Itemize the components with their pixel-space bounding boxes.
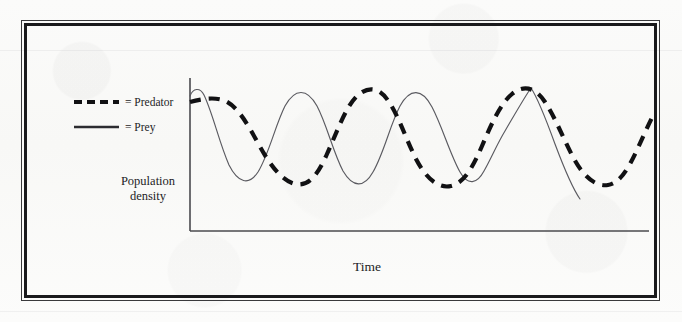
legend-item-predator: = Predator — [67, 92, 217, 112]
figure-border-inner: = Predator = Prey Population density Tim… — [24, 23, 657, 298]
legend-label-predator: = Predator — [125, 92, 173, 112]
legend: = Predator = Prey — [67, 92, 217, 144]
figure-page: = Predator = Prey Population density Tim… — [0, 0, 682, 322]
plot-area: = Predator = Prey Population density Tim… — [27, 26, 654, 295]
figure-border: = Predator = Prey Population density Tim… — [21, 20, 660, 301]
y-axis-label-line1: Population — [93, 174, 203, 189]
y-axis-label: Population density — [93, 174, 203, 204]
legend-label-prey: = Prey — [125, 117, 155, 137]
predator-curve — [190, 88, 655, 186]
legend-item-prey: = Prey — [67, 117, 217, 137]
solid-line-swatch — [73, 123, 120, 131]
prey-curve — [190, 88, 580, 199]
x-axis-label: Time — [312, 258, 422, 276]
dashed-line-swatch — [73, 98, 120, 106]
y-axis-label-line2: density — [93, 189, 203, 204]
